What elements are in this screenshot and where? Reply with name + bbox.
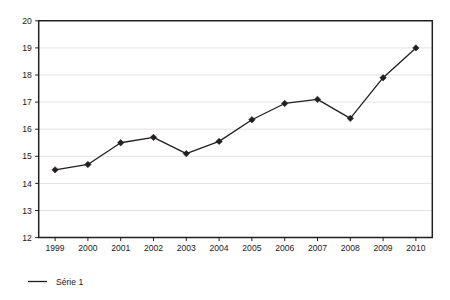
x-tick-label-2009: 2009 xyxy=(374,243,393,253)
legend-label: Série 1 xyxy=(56,277,83,287)
y-tick-label-15: 15 xyxy=(22,151,32,161)
x-tick-label-2006: 2006 xyxy=(275,243,294,253)
y-axis-tick-labels: 121314151617181920 xyxy=(22,16,32,243)
x-tick-label-2008: 2008 xyxy=(341,243,360,253)
y-tick-label-18: 18 xyxy=(22,70,32,80)
y-tick-label-13: 13 xyxy=(22,206,32,216)
chart-canvas: 121314151617181920 199920002001200220032… xyxy=(0,0,450,300)
x-tick-label-1999: 1999 xyxy=(46,243,65,253)
y-tick-label-16: 16 xyxy=(22,124,32,134)
x-tick-label-2002: 2002 xyxy=(144,243,163,253)
x-tick-label-2007: 2007 xyxy=(308,243,327,253)
x-tick-label-2000: 2000 xyxy=(78,243,97,253)
y-tick-label-19: 19 xyxy=(22,43,32,53)
x-tick-label-2010: 2010 xyxy=(406,243,425,253)
y-tick-label-17: 17 xyxy=(22,97,32,107)
y-tick-label-12: 12 xyxy=(22,233,32,243)
x-tick-label-2001: 2001 xyxy=(111,243,130,253)
y-tick-label-20: 20 xyxy=(22,16,32,26)
x-tick-label-2003: 2003 xyxy=(177,243,196,253)
x-tick-label-2004: 2004 xyxy=(210,243,229,253)
y-tick-label-14: 14 xyxy=(22,179,32,189)
line-chart-figure: 121314151617181920 199920002001200220032… xyxy=(0,0,450,300)
x-tick-label-2005: 2005 xyxy=(242,243,261,253)
